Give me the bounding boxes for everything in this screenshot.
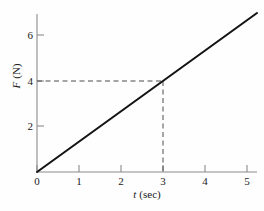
x-tick-label-0: 0 [34, 176, 40, 187]
x-tick-label-4: 4 [202, 176, 208, 187]
x-tick-label-3: 3 [160, 176, 166, 187]
y-axis-title: F(N) [11, 63, 22, 88]
y-axis-symbol: F [10, 82, 22, 89]
data-series-line [37, 13, 257, 172]
y-tick-label-4: 4 [28, 76, 34, 87]
y-axis-unit: (N) [10, 63, 22, 78]
x-tick-label-5: 5 [244, 176, 250, 187]
x-tick-label-2: 2 [118, 176, 124, 187]
x-axis-title: t(sec) [133, 189, 160, 200]
y-tick-label-2: 2 [28, 121, 34, 132]
x-axis-ticks [37, 165, 247, 172]
force-time-graph-figure: 0 1 2 3 4 5 2 4 6 t(sec) F(N) [0, 0, 264, 211]
x-tick-label-1: 1 [76, 176, 82, 187]
x-axis-unit: (sec) [139, 188, 160, 200]
x-axis-symbol: t [133, 188, 136, 200]
y-tick-label-6: 6 [28, 30, 34, 41]
